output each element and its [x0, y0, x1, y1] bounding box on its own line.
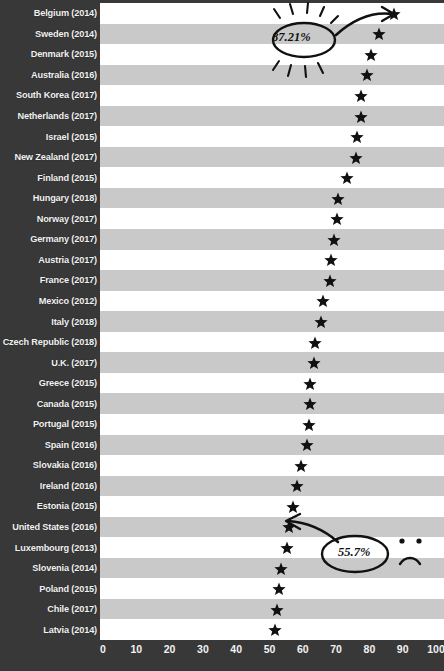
annotation-high-label: 87.21%	[272, 30, 311, 45]
row-label: France (2017)	[0, 275, 97, 285]
row-label: Slovenia (2014)	[0, 563, 97, 573]
row-stripe	[100, 455, 444, 476]
data-point-star-marker	[350, 130, 363, 143]
plot-area	[100, 3, 444, 640]
row-label: Ireland (2016)	[0, 481, 97, 491]
data-point-star-marker	[307, 356, 320, 369]
row-label: Denmark (2015)	[0, 49, 97, 59]
row-stripe	[100, 147, 444, 168]
row-stripe	[100, 496, 444, 517]
row-label: New Zealand (2017)	[0, 152, 97, 162]
row-label: Germany (2017)	[0, 234, 97, 244]
data-point-star-marker	[286, 500, 299, 513]
x-axis-tick-label: 30	[197, 643, 209, 655]
row-label: South Korea (2017)	[0, 90, 97, 100]
row-stripe	[100, 270, 444, 291]
data-point-star-marker	[354, 89, 367, 102]
data-point-star-marker	[324, 253, 337, 266]
data-point-star-marker	[308, 336, 321, 349]
row-label: United States (2016)	[0, 522, 97, 532]
x-axis-tick-label: 50	[264, 643, 276, 655]
row-stripe	[100, 435, 444, 456]
row-stripe	[100, 517, 444, 538]
data-point-star-marker	[302, 418, 315, 431]
row-stripe	[100, 250, 444, 271]
data-point-star-marker	[340, 171, 353, 184]
x-axis-tick-label: 20	[164, 643, 176, 655]
data-point-star-marker	[331, 192, 344, 205]
row-label: Portugal (2015)	[0, 419, 97, 429]
x-axis: 0102030405060708090100	[100, 640, 444, 671]
row-stripe	[100, 291, 444, 312]
row-stripe	[100, 208, 444, 229]
row-label: U.K. (2017)	[0, 358, 97, 368]
row-label: Slovakia (2016)	[0, 460, 97, 470]
annotation-low-label: 55.7%	[338, 545, 370, 560]
row-label: Mexico (2012)	[0, 296, 97, 306]
row-label: Chile (2017)	[0, 604, 97, 614]
x-axis-tick-label: 0	[100, 643, 106, 655]
row-stripe	[100, 126, 444, 147]
data-point-star-marker	[274, 562, 287, 575]
row-stripe	[100, 106, 444, 127]
row-stripe	[100, 167, 444, 188]
row-label: Czech Republic (2018)	[0, 337, 97, 347]
row-stripe	[100, 476, 444, 497]
data-point-star-marker	[303, 377, 316, 390]
row-label: Hungary (2018)	[0, 193, 97, 203]
row-stripe	[100, 65, 444, 86]
row-label: Estonia (2015)	[0, 501, 97, 511]
row-stripe	[100, 85, 444, 106]
row-stripe	[100, 352, 444, 373]
row-label: Canada (2015)	[0, 399, 97, 409]
x-axis-tick-label: 70	[330, 643, 342, 655]
row-stripe	[100, 373, 444, 394]
data-point-star-marker	[294, 459, 307, 472]
data-point-star-marker	[268, 623, 281, 636]
data-point-star-marker	[387, 7, 400, 20]
row-label: Finland (2015)	[0, 173, 97, 183]
data-point-star-marker	[280, 541, 293, 554]
data-point-star-marker	[354, 110, 367, 123]
row-label: Netherlands (2017)	[0, 111, 97, 121]
x-axis-tick-label: 100	[427, 643, 444, 655]
data-point-star-marker	[282, 520, 295, 533]
row-label: Israel (2015)	[0, 132, 97, 142]
row-label: Poland (2015)	[0, 584, 97, 594]
x-axis-tick-label: 90	[397, 643, 409, 655]
row-stripe	[100, 558, 444, 579]
row-stripe	[100, 44, 444, 65]
x-axis-tick-label: 60	[297, 643, 309, 655]
row-label: Luxembourg (2013)	[0, 543, 97, 553]
x-axis-tick-label: 10	[130, 643, 142, 655]
row-label: Spain (2016)	[0, 440, 97, 450]
data-point-star-marker	[314, 315, 327, 328]
data-point-star-marker	[270, 603, 283, 616]
data-point-star-marker	[290, 479, 303, 492]
row-label: Latvia (2014)	[0, 625, 97, 635]
data-point-star-marker	[272, 582, 285, 595]
axis-corner-filler	[0, 640, 100, 671]
row-stripe	[100, 229, 444, 250]
data-point-star-marker	[349, 151, 362, 164]
data-point-star-marker	[323, 274, 336, 287]
data-point-star-marker	[327, 233, 340, 246]
row-stripe	[100, 537, 444, 558]
category-label-column: Belgium (2014)Sweden (2014)Denmark (2015…	[0, 0, 100, 671]
x-axis-tick-label: 80	[364, 643, 376, 655]
x-axis-tick-label: 40	[230, 643, 242, 655]
data-point-star-marker	[360, 68, 373, 81]
data-point-star-marker	[364, 48, 377, 61]
row-stripe	[100, 332, 444, 353]
row-stripe	[100, 311, 444, 332]
row-stripe	[100, 393, 444, 414]
row-label: Greece (2015)	[0, 378, 97, 388]
voter-turnout-chart: Belgium (2014)Sweden (2014)Denmark (2015…	[0, 0, 444, 671]
data-point-star-marker	[303, 397, 316, 410]
data-point-star-marker	[330, 212, 343, 225]
row-label: Belgium (2014)	[0, 8, 97, 18]
row-label: Australia (2016)	[0, 70, 97, 80]
row-stripe	[100, 414, 444, 435]
data-point-star-marker	[372, 27, 385, 40]
row-label: Norway (2017)	[0, 214, 97, 224]
